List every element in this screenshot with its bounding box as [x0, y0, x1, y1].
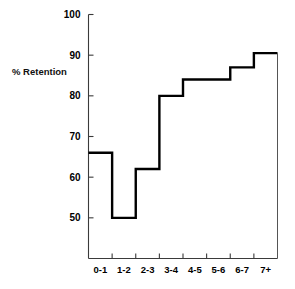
x-tick-label: 4-5 — [188, 264, 202, 275]
x-tick-label: 0-1 — [93, 264, 107, 275]
y-tick-label: 50 — [69, 212, 81, 223]
y-tick-label: 80 — [69, 90, 81, 101]
retention-step-line — [89, 53, 278, 218]
x-tick-label: 5-6 — [212, 264, 226, 275]
x-tick-label: 3-4 — [164, 264, 178, 275]
retention-step-chart: 5060708090100% Retention0-11-22-33-44-55… — [0, 0, 295, 289]
y-tick-label: 70 — [69, 131, 81, 142]
x-tick-label: 6-7 — [235, 264, 249, 275]
y-tick-label: 100 — [64, 9, 81, 20]
x-tick-label: 2-3 — [141, 264, 155, 275]
chart-canvas: 5060708090100% Retention0-11-22-33-44-55… — [0, 0, 295, 289]
y-tick-label: 90 — [69, 50, 81, 61]
y-tick-label: 60 — [69, 172, 81, 183]
y-axis-title: % Retention — [12, 66, 67, 77]
x-tick-label: 7+ — [260, 264, 271, 275]
x-tick-label: 1-2 — [117, 264, 131, 275]
